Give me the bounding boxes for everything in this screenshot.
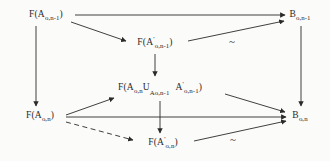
- node-bottom-left: F(Ao,n): [26, 111, 54, 123]
- node-center-close: ): [199, 82, 202, 92]
- node-center-second-base: A: [175, 82, 182, 92]
- equivalence-tilde-lower: ~: [230, 134, 236, 145]
- node-lower-mid: F(A'o,n): [148, 136, 178, 150]
- node-center-subscript-2: o,n-1: [184, 87, 199, 94]
- node-center-union-operator-subscript: Ao,n-1: [150, 90, 170, 97]
- node-bottom-right: Bo,n: [292, 111, 307, 123]
- arrow-upper-mid-to-top-right: [188, 21, 284, 41]
- equivalence-tilde-upper: ~: [229, 36, 235, 47]
- node-bottom-left-close: ): [51, 110, 54, 120]
- arrow-bottom-left-to-lower-mid-dashed: [66, 122, 133, 140]
- node-center-func: F(A: [118, 82, 134, 92]
- node-center-union-operator: U: [143, 82, 150, 92]
- commutative-diagram: F(Ao,n-1) Bo,n-1 F(A'o,n-1) F(Ao,nUAo,n-…: [0, 0, 330, 161]
- node-top-left: F(Ao,n-1): [29, 10, 63, 22]
- node-upper-mid: F(A'o,n-1): [137, 36, 172, 50]
- node-upper-mid-close: ): [169, 37, 172, 47]
- node-top-right-subscript: o,n-1: [296, 14, 311, 21]
- node-bottom-left-subscript: o,n: [42, 115, 51, 122]
- node-upper-mid-subscript: o,n-1: [155, 42, 170, 49]
- node-center-union: F(Ao,nUAo,n-1 A'o,n-1): [118, 81, 202, 97]
- arrow-center-to-bottom-right: [225, 94, 285, 112]
- node-lower-mid-func: F(A: [148, 137, 164, 147]
- node-lower-mid-subscript: o,n: [166, 142, 175, 149]
- node-lower-mid-close: ): [174, 137, 177, 147]
- node-upper-mid-func: F(A: [137, 37, 153, 47]
- node-bottom-left-func: F(A: [26, 110, 42, 120]
- node-top-right: Bo,n-1: [289, 10, 310, 22]
- arrow-lower-mid-to-bottom-right: [194, 121, 286, 141]
- node-top-left-close: ): [60, 9, 63, 19]
- node-bottom-right-subscript: o,n: [299, 115, 308, 122]
- node-center-opsub-sub: o,n-1: [155, 89, 170, 96]
- node-top-left-subscript: o,n-1: [45, 14, 60, 21]
- arrow-bottom-left-to-center: [66, 98, 114, 115]
- arrow-top-left-to-upper-mid: [71, 22, 126, 41]
- node-center-subscript-1: o,n: [134, 87, 143, 94]
- node-top-left-func: F(A: [29, 9, 45, 19]
